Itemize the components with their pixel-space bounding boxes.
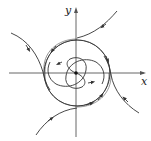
phase-portrait: x y xyxy=(0,0,151,141)
y-axis-arrow-icon xyxy=(74,7,78,13)
outer-trajectory-top-right xyxy=(77,11,117,38)
y-axis-label: y xyxy=(64,4,72,17)
outer-trajectory-bottom-left xyxy=(36,108,77,135)
origin-equilibrium-point xyxy=(74,71,78,75)
inner-trajectory-2-arrow xyxy=(88,82,93,83)
outer-trajectory-bottom-left-arrow xyxy=(48,118,52,121)
x-axis-label: x xyxy=(141,75,148,88)
outer-trajectory-left xyxy=(11,33,50,90)
axes: x y xyxy=(9,4,148,137)
inner-trajectory-1-arrow xyxy=(58,62,62,64)
